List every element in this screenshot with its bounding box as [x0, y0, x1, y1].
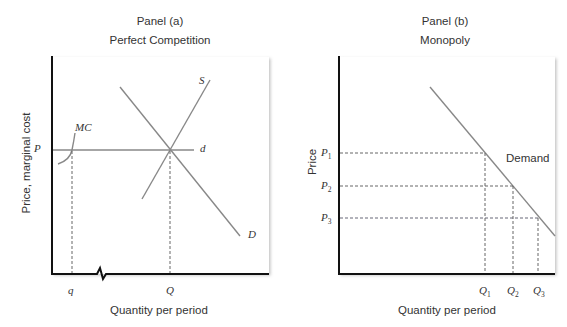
panel-b-title: Panel (b) [345, 15, 545, 27]
label-P1: P1 [321, 146, 331, 161]
panel-a-x-axis-label: Quantity per period [110, 304, 208, 316]
panel-a-y-axis-label: Price, marginal cost [20, 103, 32, 223]
panel-a-title: Panel (a) [60, 15, 260, 27]
panel-b-x-axis-label: Quantity per period [398, 304, 496, 316]
panel-b-frame [339, 57, 555, 274]
label-P3: P3 [321, 211, 331, 226]
label-P: P [34, 142, 41, 154]
label-Q: Q [166, 284, 174, 296]
label-MC: MC [75, 121, 92, 133]
label-D: D [248, 228, 256, 240]
label-d: d [200, 142, 206, 154]
label-Q1: Q1 [479, 284, 491, 299]
label-Q3: Q3 [533, 284, 545, 299]
label-S: S [199, 74, 205, 86]
label-demand: Demand [506, 152, 549, 164]
label-Q2: Q2 [507, 284, 519, 299]
charts-canvas [0, 0, 567, 327]
label-P2: P2 [321, 179, 331, 194]
panel-b-subtitle: Monopoly [345, 34, 545, 46]
panel-b-y-axis-label: Price [306, 142, 318, 182]
panel-a-subtitle: Perfect Competition [60, 34, 260, 46]
label-q: q [68, 284, 74, 296]
